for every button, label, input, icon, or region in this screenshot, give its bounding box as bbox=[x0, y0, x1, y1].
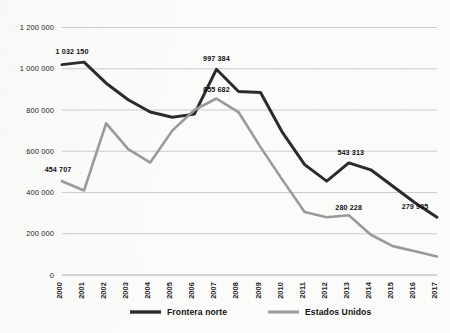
x-tick-label: 2012 bbox=[320, 282, 329, 299]
x-tick-label: 2013 bbox=[342, 282, 351, 299]
x-tick-label: 2007 bbox=[209, 282, 218, 299]
gridlines bbox=[62, 28, 437, 276]
line-chart: 0200 000400 000600 000800 0001 000 0001 … bbox=[0, 0, 450, 333]
y-tick-label: 800 000 bbox=[26, 106, 54, 115]
data-point-label: 454 707 bbox=[45, 165, 72, 174]
x-tick-label: 2008 bbox=[231, 282, 240, 299]
x-tick-label: 2011 bbox=[298, 282, 307, 298]
y-axis-tick-labels: 0200 000400 000600 000800 0001 000 0001 … bbox=[20, 23, 54, 280]
legend-label: Frontera norte bbox=[167, 307, 227, 317]
x-tick-label: 2005 bbox=[165, 282, 174, 299]
y-tick-label: 1 000 000 bbox=[20, 64, 54, 73]
y-tick-label: 400 000 bbox=[26, 188, 54, 197]
data-point-label: 279 905 bbox=[402, 202, 429, 211]
legend-label: Estados Unidos bbox=[305, 307, 371, 317]
data-point-label: 997 384 bbox=[203, 54, 230, 63]
x-tick-label: 2004 bbox=[143, 281, 152, 299]
data-series-lines bbox=[62, 62, 437, 256]
x-tick-label: 2016 bbox=[408, 282, 417, 299]
data-point-label: 855 682 bbox=[203, 85, 230, 94]
x-tick-label: 2010 bbox=[276, 282, 285, 299]
x-tick-label: 2009 bbox=[254, 282, 263, 299]
series-line bbox=[62, 62, 437, 217]
data-point-label: 543 313 bbox=[337, 148, 364, 157]
y-tick-label: 0 bbox=[50, 271, 54, 280]
x-tick-label: 2014 bbox=[364, 281, 373, 299]
y-tick-label: 1 200 000 bbox=[20, 23, 54, 32]
data-point-label: 280 228 bbox=[335, 203, 362, 212]
data-point-label: 1 032 150 bbox=[56, 47, 89, 56]
y-tick-label: 600 000 bbox=[26, 147, 54, 156]
x-tick-label: 2000 bbox=[55, 282, 64, 299]
x-axis-tick-labels: 2000200120022003200420052006200720082009… bbox=[55, 281, 439, 299]
x-tick-label: 2015 bbox=[386, 282, 395, 299]
x-tick-label: 2006 bbox=[187, 282, 196, 299]
y-tick-label: 200 000 bbox=[26, 229, 54, 238]
chart-container: 0200 000400 000600 000800 0001 000 0001 … bbox=[0, 0, 450, 333]
x-tick-label: 2001 bbox=[77, 282, 86, 299]
x-tick-label: 2002 bbox=[99, 282, 108, 299]
x-tick-label: 2017 bbox=[430, 282, 439, 299]
data-point-labels: 454 7071 032 150997 384855 682543 313280… bbox=[45, 47, 429, 212]
x-tick-label: 2003 bbox=[121, 282, 130, 299]
chart-legend: Frontera norteEstados Unidos bbox=[130, 307, 371, 317]
